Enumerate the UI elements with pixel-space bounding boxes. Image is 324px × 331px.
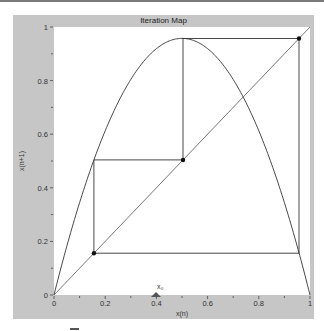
x-tick-label: 0.8 [254,299,264,308]
x-tick-label: 0.2 [100,299,110,308]
orbit-point [92,251,96,255]
y-axis-label: x(n+1) [18,151,26,171]
y-tick-label: 0.6 [38,130,48,139]
y-tick-label: 0.8 [38,77,48,86]
iteration-map-chart: 00.20.40.60.8100.20.40.60.81 x₀ x(n) x(n… [0,0,324,331]
orbit-point [297,36,301,40]
x-axis-label: x(n) [176,310,188,318]
x-tick-label: 0 [52,299,56,308]
x-tick-label: 0.6 [202,299,212,308]
orbit-point [181,158,185,162]
bottom-handle [70,328,79,330]
y-tick-label: 0 [44,291,48,300]
x-tick-label: 1 [308,299,312,308]
y-tick-label: 0.4 [38,184,48,193]
x0-marker-label: x₀ [157,283,164,290]
y-tick-label: 0.2 [38,237,48,246]
y-tick-label: 1 [44,23,48,32]
x-tick-label: 0.4 [151,299,161,308]
